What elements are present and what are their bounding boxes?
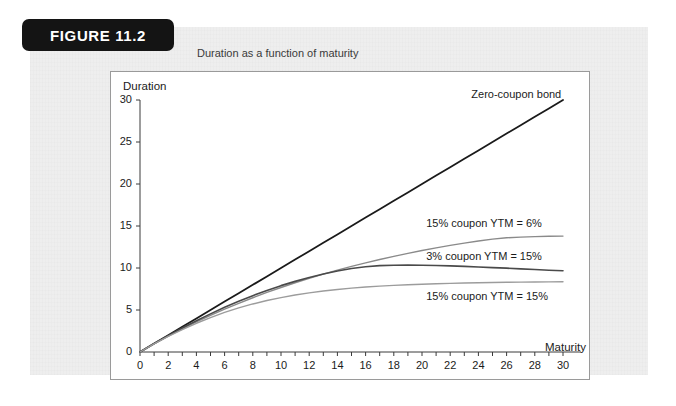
- figure-number-badge: FIGURE 11.2: [22, 19, 174, 51]
- x-tick-label: 2: [157, 359, 179, 371]
- figure-number-label: FIGURE 11.2: [50, 27, 146, 44]
- series-label-2: 3% coupon YTM = 15%: [426, 250, 542, 262]
- y-tick-label: 0: [110, 345, 132, 357]
- x-tick-label: 12: [298, 359, 320, 371]
- y-axis-title: Duration: [123, 80, 166, 92]
- figure-root: FIGURE 11.2 Duration as a function of ma…: [0, 0, 676, 406]
- x-tick-label: 30: [552, 359, 574, 371]
- x-tick-label: 14: [326, 359, 348, 371]
- y-tick-label: 5: [110, 303, 132, 315]
- x-tick-label: 20: [411, 359, 433, 371]
- series-label-3: 15% coupon YTM = 15%: [426, 290, 548, 302]
- x-tick-label: 4: [185, 359, 207, 371]
- x-tick-label: 16: [355, 359, 377, 371]
- x-axis-title: Maturity: [545, 341, 586, 353]
- y-tick-label: 10: [110, 261, 132, 273]
- chart-plot-area: Duration Maturity 051015202530 024681012…: [110, 71, 590, 380]
- x-tick-label: 24: [467, 359, 489, 371]
- x-tick-label: 0: [129, 359, 151, 371]
- x-tick-label: 6: [214, 359, 236, 371]
- series-label-0: Zero-coupon bond: [471, 88, 561, 100]
- y-tick-label: 30: [110, 93, 132, 105]
- x-tick-label: 28: [524, 359, 546, 371]
- figure-caption: Duration as a function of maturity: [197, 47, 358, 59]
- x-tick-label: 10: [270, 359, 292, 371]
- x-tick-label: 26: [496, 359, 518, 371]
- series-line-2: [140, 265, 563, 352]
- x-tick-label: 22: [439, 359, 461, 371]
- y-tick-label: 25: [110, 135, 132, 147]
- y-tick-label: 20: [110, 177, 132, 189]
- x-tick-label: 18: [383, 359, 405, 371]
- series-label-1: 15% coupon YTM = 6%: [426, 217, 542, 229]
- y-tick-label: 15: [110, 219, 132, 231]
- x-tick-label: 8: [242, 359, 264, 371]
